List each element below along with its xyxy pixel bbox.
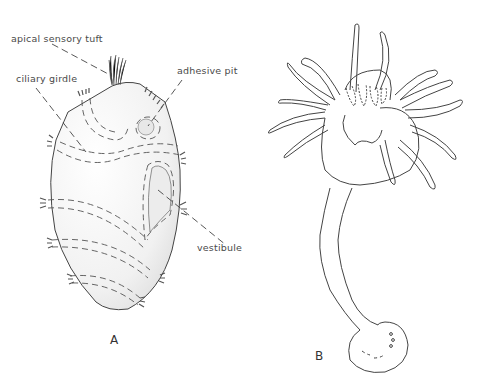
label-vestibule: vestibule [197, 242, 242, 253]
leader-apical-tuft [52, 44, 112, 76]
label-adhesive-pit: adhesive pit [177, 65, 238, 76]
larva-drawing [40, 55, 187, 310]
figure: apical sensory tuft ciliary girdle adhes… [0, 0, 497, 389]
panel-letter-b: B [315, 349, 323, 363]
label-ciliary-girdle: ciliary girdle [16, 73, 77, 84]
panel-letter-a: A [110, 333, 118, 347]
label-apical-sensory-tuft: apical sensory tuft [11, 33, 103, 44]
polyp-drawing [268, 24, 462, 373]
illustration-canvas [0, 0, 497, 389]
apical-tuft [109, 55, 126, 85]
